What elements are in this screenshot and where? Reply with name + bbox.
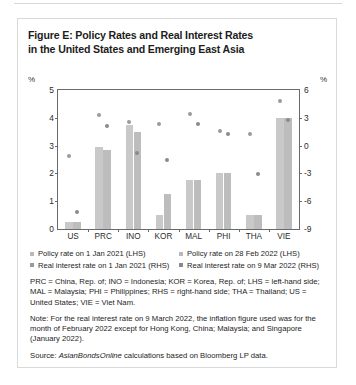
dot-ino-series-1 xyxy=(135,151,139,155)
chart-legend: Policy rate on 1 Jan 2021 (LHS) Policy r… xyxy=(30,249,328,272)
legend-label: Real interest rate on 1 Jan 2021 (RHS) xyxy=(38,261,169,270)
x-axis-tick-ino: INO xyxy=(126,232,141,241)
y-axis-tick-right: 3 xyxy=(304,113,309,123)
bar-mal-series-1 xyxy=(194,180,202,229)
y-axis-tickmark-left xyxy=(55,201,58,202)
source-name: AsianBondsOnline xyxy=(59,351,122,360)
legend-swatch-icon xyxy=(30,252,34,256)
dot-tha-series-0 xyxy=(248,132,252,136)
y-axis-tickmark-right xyxy=(299,173,302,174)
legend-item-2: Real interest rate on 1 Jan 2021 (RHS) xyxy=(30,261,179,270)
bar-vie-series-0 xyxy=(276,118,284,229)
bar-ino-series-1 xyxy=(134,132,142,229)
legend-row-2: Real interest rate on 1 Jan 2021 (RHS) R… xyxy=(30,261,328,270)
dot-phi-series-0 xyxy=(218,129,222,133)
x-axis-tickmark xyxy=(148,229,149,232)
dot-tha-series-1 xyxy=(256,172,260,176)
x-axis-tickmark xyxy=(269,229,270,232)
abbreviations-note: PRC = China, Rep. of; INO = Indonesia; K… xyxy=(30,277,326,308)
dot-mal-series-0 xyxy=(188,112,192,116)
x-axis-tickmark xyxy=(239,229,240,232)
y-axis-tick-left: 0 xyxy=(49,224,54,234)
y-axis-tickmark-left xyxy=(55,146,58,147)
source-note: Source: AsianBondsOnline calculations ba… xyxy=(30,351,326,361)
x-axis-tickmark xyxy=(179,229,180,232)
y-axis-tick-right: 6 xyxy=(304,85,309,95)
x-axis-tick-phi: PHI xyxy=(217,232,231,241)
y-axis-tickmark-left xyxy=(55,173,58,174)
y-axis-tick-left: 3 xyxy=(49,141,54,151)
figure-notes: PRC = China, Rep. of; INO = Indonesia; K… xyxy=(30,277,326,367)
x-axis-tick-vie: VIE xyxy=(277,232,290,241)
figure-card: Figure E: Policy Rates and Real Interest… xyxy=(17,18,337,368)
bar-ino-series-0 xyxy=(126,125,134,229)
y-axis-tick-right: -6 xyxy=(304,196,311,206)
bar-us-series-1 xyxy=(73,222,81,229)
dot-phi-series-1 xyxy=(226,132,230,136)
legend-label: Real interest rate on 9 Mar 2022 (RHS) xyxy=(187,261,319,270)
y-axis-tickmark-right xyxy=(299,118,302,119)
y-axis-tick-left: 1 xyxy=(49,196,54,206)
bar-tha-series-1 xyxy=(254,215,262,229)
y-axis-tickmark-right xyxy=(299,201,302,202)
dot-kor-series-1 xyxy=(165,158,169,162)
x-axis-tickmark xyxy=(88,229,89,232)
source-suffix: calculations based on Bloomberg LP data. xyxy=(122,351,268,360)
y-axis-tick-left: 2 xyxy=(49,168,54,178)
source-prefix: Source: xyxy=(30,351,59,360)
legend-item-0: Policy rate on 1 Jan 2021 (LHS) xyxy=(30,249,179,258)
bar-phi-series-1 xyxy=(224,173,232,229)
figure-title-line-2: in the United States and Emerging East A… xyxy=(28,42,328,56)
left-axis-unit: % xyxy=(28,75,35,84)
bar-kor-series-1 xyxy=(164,194,172,229)
figure-page: Figure E: Policy Rates and Real Interest… xyxy=(0,0,356,385)
legend-item-3: Real interest rate on 9 Mar 2022 (RHS) xyxy=(179,261,328,270)
legend-label: Policy rate on 28 Feb 2022 (LHS) xyxy=(187,249,300,258)
legend-label: Policy rate on 1 Jan 2021 (LHS) xyxy=(38,249,146,258)
bar-kor-series-0 xyxy=(156,215,164,229)
legend-swatch-icon xyxy=(179,252,183,256)
dot-kor-series-0 xyxy=(157,122,161,126)
x-axis-tickmark xyxy=(118,229,119,232)
x-axis-tick-prc: PRC xyxy=(95,232,112,241)
legend-swatch-icon xyxy=(179,263,183,267)
y-axis-tickmark-left xyxy=(55,118,58,119)
dot-us-series-1 xyxy=(75,210,79,214)
dot-prc-series-0 xyxy=(97,113,101,117)
x-axis-tick-kor: KOR xyxy=(155,232,173,241)
chart-plot-area: 012345-9-6-3036USPRCINOKORMALPHITHAVIE xyxy=(57,89,300,230)
bar-vie-series-1 xyxy=(284,118,292,229)
x-axis-tick-us: US xyxy=(67,232,78,241)
dot-ino-series-0 xyxy=(127,120,131,124)
y-axis-tick-left: 4 xyxy=(49,113,54,123)
dot-vie-series-0 xyxy=(278,99,282,103)
bar-mal-series-0 xyxy=(186,180,194,229)
dot-us-series-0 xyxy=(67,154,71,158)
y-axis-tick-left: 5 xyxy=(49,85,54,95)
bar-tha-series-0 xyxy=(246,215,254,229)
legend-swatch-icon xyxy=(30,263,34,267)
y-axis-tick-right: 0 xyxy=(304,141,309,151)
figure-title-line-1: Figure E: Policy Rates and Real Interest… xyxy=(28,28,328,42)
dot-mal-series-1 xyxy=(196,122,200,126)
x-axis-tick-tha: THA xyxy=(246,232,262,241)
right-axis-unit: % xyxy=(320,75,327,84)
legend-item-1: Policy rate on 28 Feb 2022 (LHS) xyxy=(179,249,328,258)
methodology-note: Note: For the real interest rate on 9 Ma… xyxy=(30,314,326,345)
legend-row-1: Policy rate on 1 Jan 2021 (LHS) Policy r… xyxy=(30,249,328,258)
x-axis-tick-mal: MAL xyxy=(185,232,202,241)
y-axis-tick-right: -9 xyxy=(304,224,311,234)
bar-us-series-0 xyxy=(65,222,73,229)
dot-prc-series-1 xyxy=(105,124,109,128)
page-top-rule xyxy=(14,3,342,4)
x-axis-tickmark xyxy=(209,229,210,232)
bar-prc-series-1 xyxy=(103,150,111,229)
y-axis-tick-right: -3 xyxy=(304,168,311,178)
bar-prc-series-0 xyxy=(95,147,103,229)
y-axis-tickmark-right xyxy=(299,146,302,147)
figure-title: Figure E: Policy Rates and Real Interest… xyxy=(28,28,328,56)
dot-vie-series-1 xyxy=(286,118,290,122)
bar-phi-series-0 xyxy=(216,173,224,229)
